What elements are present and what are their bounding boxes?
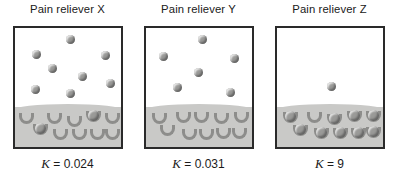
- free-drug-molecule: [78, 72, 87, 81]
- free-drug-molecule: [159, 52, 168, 61]
- bound-drug-molecule: [285, 111, 296, 122]
- receptor-cup-icon: [199, 129, 214, 140]
- receptor-bound: [351, 128, 366, 139]
- receptor-bound: [293, 125, 308, 136]
- receptor-cup-icon: [232, 128, 247, 139]
- receptor-cup-icon: [53, 129, 68, 140]
- receptor-bound: [333, 128, 348, 139]
- free-drug-molecule: [198, 35, 207, 44]
- k-symbol: K: [41, 156, 50, 171]
- receptor-cup-icon: [19, 113, 34, 124]
- bound-drug-molecule: [349, 110, 360, 121]
- receptor-cup-icon: [67, 116, 82, 127]
- receptor-bound: [86, 111, 101, 122]
- panel-title: Pain reliever Y: [161, 3, 236, 19]
- beaker-container: [275, 26, 385, 149]
- bound-drug-molecule: [295, 124, 306, 135]
- free-drug-molecule: [327, 82, 336, 91]
- panel-2: Pain reliever YK = 0.031: [135, 0, 262, 172]
- receptor-cup-icon: [214, 113, 229, 124]
- receptor-bound: [314, 128, 329, 139]
- receptor-cup-icon: [176, 112, 191, 123]
- beaker-container: [13, 26, 123, 149]
- free-drug-molecule: [230, 54, 239, 63]
- receptor-bound: [366, 111, 381, 122]
- receptor-cup-icon: [47, 113, 62, 124]
- receptor-empty: [67, 116, 82, 127]
- k-symbol: K: [172, 156, 181, 171]
- free-drug-molecule: [101, 51, 110, 60]
- receptor-cup-icon: [105, 113, 120, 124]
- equilibrium-constant-label: K = 0.024: [41, 156, 93, 172]
- panel-title: Pain reliever Z: [292, 3, 366, 19]
- free-drug-molecule: [48, 64, 57, 73]
- free-drug-molecule: [32, 50, 41, 59]
- k-value: 0.024: [64, 157, 94, 171]
- bound-drug-molecule: [88, 110, 99, 121]
- receptor-cup-icon: [152, 113, 167, 124]
- panel-3: Pain reliever ZK = 9: [266, 0, 393, 172]
- beaker-container: [144, 26, 254, 149]
- receptor-bound: [283, 112, 298, 123]
- receptor-empty: [160, 125, 175, 136]
- receptor-empty: [182, 129, 197, 140]
- receptor-binding-figure: Pain reliever XK = 0.024Pain reliever YK…: [0, 0, 397, 188]
- receptor-empty: [105, 129, 120, 140]
- bound-drug-molecule: [353, 127, 364, 138]
- receptor-empty: [152, 113, 167, 124]
- receptor-empty: [234, 112, 249, 123]
- free-drug-molecule: [66, 89, 75, 98]
- receptor-bound: [347, 111, 362, 122]
- receptor-empty: [214, 113, 229, 124]
- receptor-cup-icon: [216, 128, 231, 139]
- receptor-cup-icon: [72, 129, 87, 140]
- receptor-empty: [72, 129, 87, 140]
- receptor-cup-icon: [234, 112, 249, 123]
- bound-drug-molecule: [368, 110, 379, 121]
- free-drug-molecule: [31, 85, 40, 94]
- receptor-empty: [307, 112, 322, 123]
- k-value: 0.031: [195, 157, 225, 171]
- k-value: 9: [337, 157, 344, 171]
- receptor-empty: [176, 112, 191, 123]
- bound-drug-molecule: [316, 127, 327, 138]
- receptor-empty: [232, 128, 247, 139]
- receptor-cup-icon: [307, 112, 322, 123]
- receptor-empty: [47, 113, 62, 124]
- k-equals-sign: =: [324, 157, 338, 171]
- receptor-empty: [194, 112, 209, 123]
- receptor-empty: [90, 129, 105, 140]
- bound-drug-molecule: [35, 123, 46, 134]
- panel-1: Pain reliever XK = 0.024: [4, 0, 131, 172]
- receptor-cup-icon: [194, 112, 209, 123]
- receptor-empty: [199, 129, 214, 140]
- free-drug-molecule: [194, 68, 203, 77]
- free-drug-molecule: [173, 83, 182, 92]
- receptor-empty: [105, 113, 120, 124]
- receptor-bound: [366, 127, 381, 138]
- panel-title: Pain reliever X: [30, 3, 105, 19]
- receptor-empty: [216, 128, 231, 139]
- receptor-empty: [19, 113, 34, 124]
- k-symbol: K: [315, 156, 324, 171]
- receptor-cup-icon: [160, 125, 175, 136]
- equilibrium-constant-label: K = 9: [315, 156, 344, 172]
- receptor-empty: [53, 129, 68, 140]
- receptor-cup-icon: [90, 129, 105, 140]
- k-equals-sign: =: [50, 157, 64, 171]
- receptor-cup-icon: [105, 129, 120, 140]
- k-equals-sign: =: [181, 157, 195, 171]
- free-drug-molecule: [226, 88, 235, 97]
- free-drug-molecule: [106, 79, 115, 88]
- equilibrium-constant-label: K = 0.031: [172, 156, 224, 172]
- bound-drug-molecule: [329, 113, 340, 124]
- free-drug-molecule: [66, 35, 75, 44]
- receptor-bound: [327, 114, 342, 125]
- bound-drug-molecule: [335, 127, 346, 138]
- receptor-bound: [33, 124, 48, 135]
- receptor-cup-icon: [182, 129, 197, 140]
- bound-drug-molecule: [368, 126, 379, 137]
